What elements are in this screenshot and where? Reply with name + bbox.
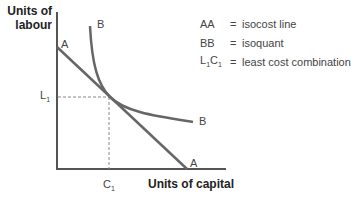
y-axis-title: Units of labour <box>0 4 52 32</box>
legend: AA = isocost line BB = isoquant L1C1 = l… <box>200 14 351 71</box>
legend-item-isocost: AA = isocost line <box>200 14 351 33</box>
l1-tick-label: L1 <box>40 89 50 103</box>
legend-item-least-cost: L1C1 = least cost combination <box>200 52 351 71</box>
legend-description: isoquant <box>242 37 284 49</box>
legend-key: AA <box>200 18 230 30</box>
legend-equals: = <box>230 37 242 49</box>
legend-key: BB <box>200 37 230 49</box>
c1-tick-label: C1 <box>103 178 115 192</box>
legend-equals: = <box>230 56 242 68</box>
legend-description: least cost combination <box>242 56 351 68</box>
isoquant-curve-bb <box>90 26 193 122</box>
isocost-line-aa <box>57 47 187 169</box>
y-axis-title-line2: labour <box>0 18 52 32</box>
legend-key: L1C1 <box>200 54 230 68</box>
isocost-label-end: A <box>190 157 197 169</box>
x-axis-title: Units of capital <box>148 177 234 191</box>
isoquant-label-start: B <box>97 18 104 30</box>
legend-equals: = <box>230 18 242 30</box>
isocost-label-start: A <box>61 38 68 50</box>
legend-description: isocost line <box>242 18 296 30</box>
legend-item-isoquant: BB = isoquant <box>200 33 351 52</box>
y-axis-title-line1: Units of <box>0 4 52 18</box>
isoquant-label-end: B <box>199 115 206 127</box>
